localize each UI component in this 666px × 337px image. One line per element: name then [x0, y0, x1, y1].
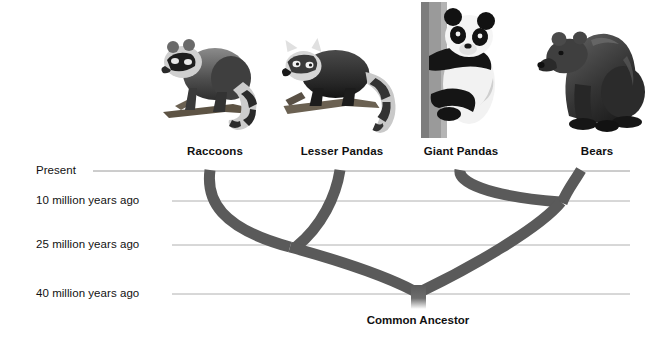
branch-lesser-pandas: [296, 170, 340, 247]
timeline-gridlines: [93, 171, 630, 294]
tree-branches: [209, 170, 581, 291]
axis-label-40mya: 40 million years ago: [36, 287, 139, 299]
axis-label-25mya: 25 million years ago: [36, 238, 139, 250]
branch-raccoon-clade-stem: [290, 247, 414, 291]
common-ancestor-label: Common Ancestor: [367, 314, 469, 326]
axis-label-present: Present: [36, 164, 76, 176]
phylogenetic-tree-figure: Raccoons Lesser Pandas Giant Pandas Bear…: [0, 0, 666, 337]
branch-bears: [562, 170, 581, 203]
branch-bear-clade-stem: [422, 202, 561, 291]
axis-label-10mya: 10 million years ago: [36, 194, 139, 206]
root-stem: [411, 285, 426, 309]
branch-giant-pandas: [460, 170, 560, 202]
branch-raccoons: [209, 170, 290, 247]
